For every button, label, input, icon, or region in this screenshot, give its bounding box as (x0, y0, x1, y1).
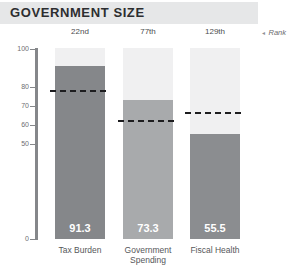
bar-value: 91.3 (55, 222, 105, 234)
y-tick-label: 80 (5, 83, 29, 90)
reference-line (185, 112, 245, 114)
y-tick-label: 0 (5, 235, 29, 242)
y-tick (30, 87, 35, 88)
y-tick-label: 50 (5, 140, 29, 147)
y-tick (30, 125, 35, 126)
chart-title: GOVERNMENT SIZE (0, 2, 258, 24)
rank-label: 22nd (55, 27, 105, 36)
category-label: Government Spending (114, 245, 182, 265)
y-tick (30, 144, 35, 145)
left-triangle-icon: ◂ (262, 29, 265, 36)
bar-value: 55.5 (190, 222, 240, 234)
rank-legend: ◂ Rank (262, 28, 286, 37)
rank-legend-label: Rank (268, 28, 286, 37)
rank-label: 77th (123, 27, 173, 36)
reference-line (50, 90, 110, 92)
rank-label: 129th (190, 27, 240, 36)
y-axis-line (35, 48, 38, 240)
y-tick (30, 239, 35, 240)
y-tick-label: 70 (5, 102, 29, 109)
chart-header-band: GOVERNMENT SIZE (0, 2, 258, 24)
y-tick-label: 60 (5, 121, 29, 128)
category-label: Fiscal Health (181, 245, 249, 255)
y-tick-label: 100 (5, 45, 29, 52)
government-size-chart: GOVERNMENT SIZE ◂ Rank 10080706050091.32… (0, 0, 289, 280)
y-tick (30, 106, 35, 107)
reference-line (118, 120, 178, 122)
bar-value: 73.3 (123, 222, 173, 234)
y-tick (30, 49, 35, 50)
category-label: Tax Burden (46, 245, 114, 255)
